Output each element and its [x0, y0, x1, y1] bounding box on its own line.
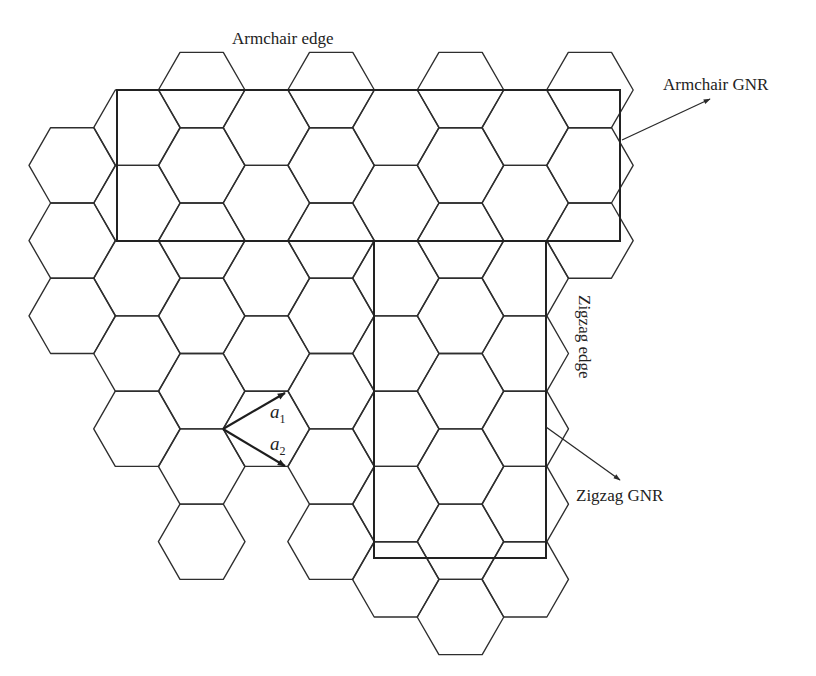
zigzag-gnr-label: Zigzag GNR — [576, 487, 663, 504]
hexagon-cell — [417, 128, 504, 203]
armchair-edge-label: Armchair edge — [232, 30, 333, 47]
hexagon-cell — [158, 278, 245, 353]
hexagon-cell — [158, 504, 245, 579]
hexagon-cell — [158, 429, 245, 504]
hexagon-cell — [417, 429, 504, 504]
hexagon-cell — [417, 579, 504, 654]
graphene-lattice-diagram — [0, 0, 816, 676]
hexagon-cell — [353, 542, 440, 617]
zigzag-gnr-ribbon-outline — [374, 241, 546, 558]
hexagon-cell — [288, 278, 375, 353]
vector-a2-label: a2 — [270, 434, 286, 457]
hexagon-cell — [353, 90, 440, 165]
armchair-gnr-arrow-icon — [622, 99, 710, 140]
hexagon-cell — [482, 165, 569, 240]
armchair-gnr-label: Armchair GNR — [663, 76, 768, 93]
hexagon-cell — [29, 203, 116, 278]
hexagon-cell — [417, 354, 504, 429]
hexagon-cell — [158, 128, 245, 203]
hexagon-cell — [288, 429, 375, 504]
hexagon-cell — [482, 241, 569, 316]
vector-a1-subscript: 1 — [280, 412, 286, 426]
hexagon-cell — [94, 165, 181, 240]
hexagon-cell — [94, 316, 181, 391]
hexagon-cell — [417, 278, 504, 353]
hexagon-cell — [353, 316, 440, 391]
hexagon-cell — [353, 466, 440, 541]
vector-a2-subscript: 2 — [280, 444, 286, 458]
zigzag-edge-label: Zigzag edge — [576, 295, 593, 379]
hexagon-cell — [482, 466, 569, 541]
vector-a1-label: a1 — [270, 402, 286, 425]
hexagon-cell — [223, 241, 310, 316]
hexagon-lattice — [29, 52, 633, 654]
vector-a1-symbol: a — [270, 401, 280, 422]
zigzag-gnr-arrow-icon — [546, 427, 620, 480]
hexagon-cell — [94, 90, 181, 165]
hexagon-cell — [288, 354, 375, 429]
hexagon-cell — [94, 391, 181, 466]
hexagon-cell — [223, 316, 310, 391]
hexagon-cell — [482, 316, 569, 391]
hexagon-cell — [29, 128, 116, 203]
hexagon-cell — [223, 165, 310, 240]
hexagon-cell — [482, 90, 569, 165]
hexagon-cell — [353, 165, 440, 240]
hexagon-cell — [353, 241, 440, 316]
hexagon-cell — [223, 90, 310, 165]
hexagon-cell — [353, 391, 440, 466]
hexagon-cell — [417, 504, 504, 579]
hexagon-cell — [158, 354, 245, 429]
hexagon-cell — [94, 241, 181, 316]
vector-a2-symbol: a — [270, 433, 280, 454]
hexagon-cell — [288, 128, 375, 203]
hexagon-cell — [29, 278, 116, 353]
hexagon-cell — [482, 391, 569, 466]
hexagon-cell — [482, 542, 569, 617]
hexagon-cell — [288, 504, 375, 579]
